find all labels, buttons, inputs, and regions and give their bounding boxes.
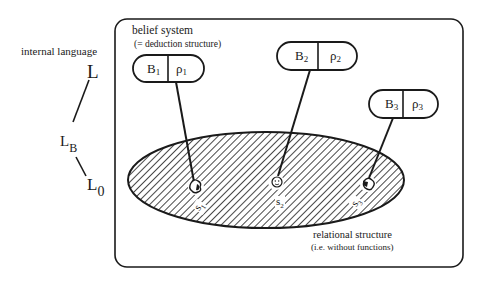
relational-structure-title: relational structure [313, 230, 392, 241]
belief-3-b-sub: 3 [394, 102, 399, 112]
belief-3-rho: ρ3 [412, 97, 423, 112]
belief-2-rho-sub: 2 [337, 54, 342, 64]
belief-pill-2 [277, 42, 357, 70]
state-2-sub: 2 [280, 202, 284, 210]
belief-1-rho-sub: 1 [183, 67, 188, 77]
level-l: L [87, 62, 99, 81]
belief-system-subtitle: (= deduction structure) [134, 40, 221, 50]
belief-2-b: B [295, 48, 304, 63]
level-link-l-lb [73, 80, 89, 122]
state-node-2-icon [272, 177, 282, 187]
level-lb-sub: B [69, 141, 77, 155]
belief-1-b-sub: 1 [156, 67, 161, 77]
level-l-base: L [87, 61, 99, 82]
belief-pill-1 [133, 55, 204, 82]
belief-pill-3 [369, 90, 438, 118]
level-l0-sub: 0 [97, 184, 104, 199]
belief-1-label: B1 [147, 62, 160, 77]
belief-2-label: B2 [295, 49, 308, 64]
internal-language-label: internal language [21, 46, 97, 57]
belief-3-rho-sub: 3 [419, 102, 424, 112]
state-2-label: s2 [275, 196, 285, 210]
state-node-3-icon [363, 178, 374, 189]
level-l0: L0 [87, 176, 104, 193]
state-node-1-icon [190, 180, 201, 193]
relational-structure-subtitle: (i.e. without functions) [311, 243, 394, 252]
belief-1-rho: ρ1 [176, 62, 187, 77]
belief-3-label: B3 [385, 97, 398, 112]
belief-2-rho: ρ2 [330, 49, 341, 64]
belief-2-b-sub: 2 [304, 54, 309, 64]
level-link-lb-l0 [76, 157, 86, 176]
level-lb: LB [60, 134, 77, 149]
belief-1-b: B [147, 61, 156, 76]
belief-system-title: belief system [132, 25, 193, 37]
level-l0-base: L [87, 175, 97, 194]
level-lb-base: L [60, 133, 69, 149]
belief-3-b: B [385, 96, 394, 111]
